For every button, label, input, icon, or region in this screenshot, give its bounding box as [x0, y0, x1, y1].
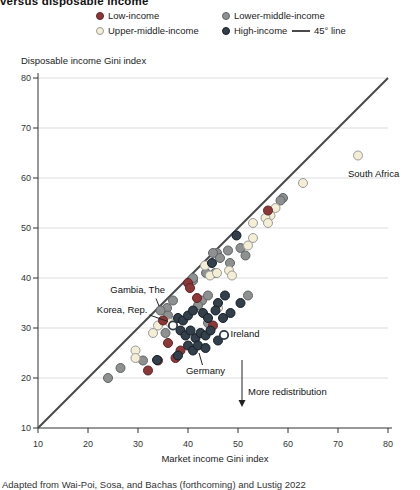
data-point-upper-middle-income [131, 354, 140, 363]
data-point-lower-middle-income [224, 246, 233, 255]
data-point-low-income [164, 339, 173, 348]
annotation-connector-germany [199, 353, 203, 365]
x-tick-label: 20 [83, 439, 93, 449]
y-tick-label: 70 [21, 123, 31, 133]
data-point-upper-middle-income [228, 271, 237, 280]
annotation-label-south-africa: South Africa [348, 168, 400, 179]
annotation-label-korea: Korea, Rep. [97, 304, 148, 315]
data-point-high-income [204, 314, 213, 323]
annotation-label-germany: Germany [186, 365, 225, 376]
data-point-lower-middle-income [204, 291, 213, 300]
data-point-high-income [232, 231, 241, 240]
data-point-high-income [208, 259, 217, 268]
data-point-highlighted-country [169, 321, 177, 329]
data-point-upper-middle-income [354, 151, 363, 160]
data-point-lower-middle-income [169, 296, 178, 305]
data-point-high-income [153, 356, 162, 365]
data-point-upper-middle-income [249, 219, 258, 228]
data-point-high-income [174, 351, 183, 360]
y-tick-label: 20 [21, 373, 31, 383]
annotation-label-more-redistribution: More redistribution [248, 386, 327, 397]
x-tick-label: 30 [133, 439, 143, 449]
data-point-lower-middle-income [161, 329, 170, 338]
data-point-high-income [189, 306, 198, 315]
source-note-partial: Adapted from Wai-Poi, Sosa, and Bachas (… [2, 479, 306, 490]
data-point-lower-middle-income [244, 291, 253, 300]
data-point-high-income [201, 344, 210, 353]
data-point-low-income [186, 284, 195, 293]
data-point-low-income [193, 294, 202, 303]
data-point-lower-middle-income [241, 251, 250, 260]
data-point-high-income [211, 306, 220, 315]
figure-container: { "figure": { "title_partial": "versus d… [0, 0, 420, 490]
data-point-high-income [236, 299, 245, 308]
data-point-upper-middle-income [264, 219, 273, 228]
data-point-upper-middle-income [244, 241, 253, 250]
x-axis-title: Market income Gini index [161, 453, 268, 464]
y-tick-label: 60 [21, 173, 31, 183]
data-point-highlighted-country [220, 331, 228, 339]
y-axis-title: Disposable income Gini index [21, 55, 146, 66]
x-tick-label: 80 [383, 439, 393, 449]
scatter-chart: 10203040506070801020304050607080South Af… [0, 0, 420, 490]
y-tick-label: 40 [21, 273, 31, 283]
x-tick-label: 10 [33, 439, 43, 449]
y-tick-label: 10 [21, 423, 31, 433]
annotation-label-gambia: Gambia, The [110, 284, 165, 295]
annotation-label-ireland: Ireland [231, 328, 260, 339]
x-tick-label: 70 [333, 439, 343, 449]
annotation-arrowhead-icon [239, 400, 246, 407]
data-point-low-income [144, 366, 153, 375]
data-point-high-income [206, 326, 215, 335]
x-tick-label: 60 [283, 439, 293, 449]
annotation-connector-gambia [156, 299, 159, 307]
data-point-upper-middle-income [213, 269, 222, 278]
x-tick-label: 50 [233, 439, 243, 449]
y-tick-label: 50 [21, 223, 31, 233]
data-point-high-income [226, 309, 235, 318]
data-point-low-income [264, 206, 273, 215]
data-point-lower-middle-income [104, 374, 113, 383]
data-point-high-income [221, 291, 230, 300]
data-point-lower-middle-income [116, 364, 125, 373]
data-point-lower-middle-income [209, 249, 218, 258]
y-tick-label: 30 [21, 323, 31, 333]
data-point-upper-middle-income [299, 179, 308, 188]
y-tick-label: 80 [21, 73, 31, 83]
x-tick-label: 40 [183, 439, 193, 449]
